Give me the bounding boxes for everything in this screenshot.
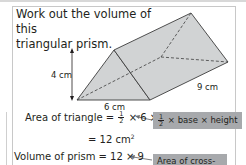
arrow-up-icon	[70, 48, 74, 53]
height-label: 4 cm	[51, 70, 72, 80]
area-formula-note: 12 × base × height	[153, 112, 242, 129]
area-lhs: Area of triangle =	[25, 112, 117, 123]
area-working-line: Area of triangle = 12 × 6 × 4	[25, 111, 168, 124]
arrow-down-icon	[70, 96, 74, 101]
length-label: 9 cm	[197, 82, 218, 92]
half-fraction: 12	[118, 111, 124, 124]
volume-working-line: Volume of prism = 12 × 9	[14, 151, 144, 163]
volume-formula-note: Area of cross-	[153, 154, 227, 165]
area-result-line: = 12 cm2	[88, 131, 135, 146]
